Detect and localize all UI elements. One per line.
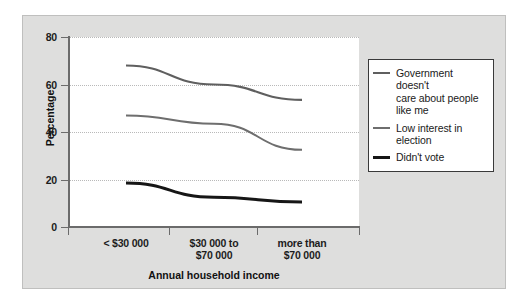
legend-item-1: Low interest inelection: [373, 122, 488, 147]
chart-legend: Government doesn'tcare about peoplelike …: [368, 59, 494, 172]
y-tick-label: 20: [23, 174, 57, 186]
legend-label-line: Low interest in: [396, 122, 462, 134]
x-tick: [257, 228, 258, 235]
legend-label-line: care about people: [396, 92, 488, 104]
x-tick: [359, 228, 360, 235]
legend-swatch: [373, 127, 390, 129]
chart-figure: 020406080 < $30 000$30 000 to$70 000more…: [22, 15, 506, 289]
legend-label: Didn't vote: [396, 151, 444, 163]
x-axis-line: [68, 226, 360, 228]
series-line-0: [126, 66, 302, 100]
legend-swatch: [373, 156, 390, 159]
legend-label: Low interest inelection: [396, 122, 462, 147]
y-tick: [61, 37, 69, 38]
legend-label-line: election: [396, 134, 462, 146]
data-lines: [69, 37, 359, 227]
legend-label-line: Didn't vote: [396, 151, 444, 163]
x-axis-title: Annual household income: [69, 269, 359, 281]
x-tick: [169, 228, 170, 235]
legend-label-line: like me: [396, 104, 488, 116]
y-axis-title: Percentage: [44, 78, 56, 158]
y-tick: [61, 132, 69, 133]
series-line-1: [126, 115, 302, 149]
legend-item-0: Government doesn'tcare about peoplelike …: [373, 67, 488, 117]
y-tick: [61, 85, 69, 86]
legend-swatch: [373, 72, 390, 74]
y-tick-label: 0: [23, 221, 57, 233]
x-tick-label-line: $70 000: [247, 249, 357, 261]
y-tick: [61, 180, 69, 181]
legend-label-line: Government doesn't: [396, 67, 488, 92]
y-tick-label: 80: [23, 31, 57, 43]
x-tick-label-line: more than: [247, 237, 357, 249]
x-tick: [68, 228, 69, 235]
series-line-2: [126, 183, 302, 202]
plot-area: [69, 37, 359, 227]
legend-label: Government doesn'tcare about peoplelike …: [396, 67, 488, 117]
x-tick-label: more than$70 000: [247, 237, 357, 261]
legend-item-2: Didn't vote: [373, 151, 488, 163]
